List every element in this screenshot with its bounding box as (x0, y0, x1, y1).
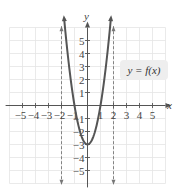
y-tick-label: 3 (79, 61, 85, 73)
x-tick-label: −5 (15, 109, 27, 121)
x-tick-label: 2 (111, 109, 117, 121)
y-tick-label: 2 (79, 74, 85, 86)
arrow-down-icon (112, 180, 116, 185)
x-tick-label: 5 (150, 109, 156, 121)
function-graph: −5−4−3−2−112345−5−4−3−2−112345 y = f(x) … (0, 0, 180, 194)
curve-arrow-icon (108, 15, 113, 21)
x-tick-label: 3 (124, 109, 130, 121)
arrow-down-icon (60, 180, 64, 185)
arrow-up-icon (60, 26, 64, 31)
function-label: y = f(x) (126, 64, 160, 77)
arrow-up-icon (112, 26, 116, 31)
y-tick-label: 4 (79, 48, 85, 60)
y-tick-label: 5 (79, 35, 85, 47)
function-label-box: y = f(x) (120, 60, 168, 80)
axes (6, 22, 172, 188)
x-tick-label: −4 (28, 109, 40, 121)
y-tick-label: −5 (73, 165, 85, 177)
x-axis-label: x (166, 99, 172, 111)
x-tick-label: 4 (137, 109, 143, 121)
x-tick-label: −3 (41, 109, 53, 121)
y-axis-label: y (83, 10, 89, 22)
y-tick-label: −4 (73, 152, 85, 164)
y-tick-label: 1 (79, 87, 85, 99)
arrow-up-icon (85, 22, 90, 28)
x-tick-label: −2 (54, 109, 66, 121)
curve-arrow-icon (62, 15, 67, 21)
